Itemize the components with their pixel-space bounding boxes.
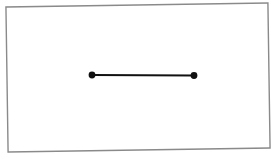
left-endpoint-dot: [89, 72, 96, 79]
figure-svg: [0, 0, 279, 159]
figure-canvas: [0, 0, 279, 159]
line-segment: [92, 75, 194, 76]
border-rectangle-stroke: [6, 3, 270, 152]
right-endpoint-dot: [191, 72, 198, 79]
